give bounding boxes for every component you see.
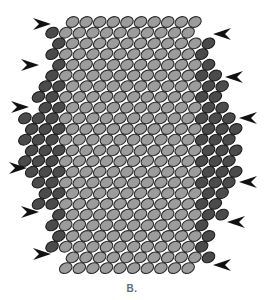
cell-grid — [17, 14, 244, 275]
arrowhead-left-icon — [239, 176, 257, 188]
arrowhead-right-icon — [11, 101, 29, 113]
cell-packing-diagram — [0, 0, 264, 300]
arrowhead-left-icon — [213, 28, 231, 40]
arrowhead-left-icon — [225, 71, 243, 83]
arrowhead-left-icon — [239, 112, 257, 124]
arrowhead-left-icon — [213, 259, 231, 271]
arrowhead-left-icon — [227, 216, 245, 228]
figure-caption: B. — [0, 283, 264, 294]
arrowhead-right-icon — [33, 18, 51, 30]
arrowhead-right-icon — [21, 59, 39, 71]
